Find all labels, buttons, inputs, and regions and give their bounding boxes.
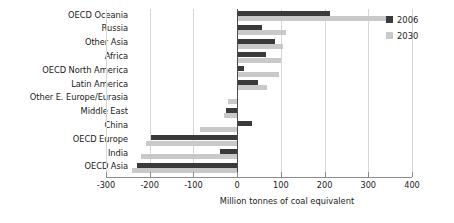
legend-item: 2006: [386, 9, 418, 25]
x-axis-title-wrapper: Million tonnes of coal equivalent: [0, 196, 454, 206]
bar-2006-other-asia: [237, 39, 275, 44]
bar-2030-oecd-oceania: [237, 16, 388, 21]
bar-2006-oecd-oceania: [237, 11, 330, 16]
x-axis-line: [106, 177, 412, 178]
chart-legend: 20062030: [386, 9, 418, 41]
bar-2030-china: [200, 127, 237, 132]
bar-2006-latin-america: [237, 80, 258, 85]
x-axis-tick: [412, 172, 413, 177]
bar-2006-oecd-europe: [151, 135, 237, 140]
zero-axis-line: [237, 9, 238, 177]
bar-2030-africa: [237, 58, 281, 63]
bar-2030-india: [141, 154, 237, 159]
legend-item: 2030: [386, 25, 418, 41]
x-axis-tick-label: -300: [86, 180, 126, 190]
bar-2030-middle-east: [224, 113, 237, 118]
bar-2030-oecd-north-america: [237, 72, 279, 77]
gridline: [368, 9, 369, 175]
bar-2030-latin-america: [237, 85, 267, 90]
bar-2006-oecd-asia: [137, 163, 237, 168]
bar-2030-oecd-asia: [132, 168, 237, 173]
x-axis-tick-label: -200: [130, 180, 170, 190]
bar-2030-oecd-europe: [146, 141, 237, 146]
bar-2030-russia: [237, 30, 286, 35]
x-axis-tick-label: 0: [217, 180, 257, 190]
x-axis-tick-label: -100: [173, 180, 213, 190]
legend-label: 2030: [397, 31, 418, 41]
x-axis-tick: [193, 172, 194, 177]
legend-swatch-icon: [386, 16, 393, 23]
plot-area: [106, 9, 412, 175]
x-axis-tick: [150, 172, 151, 177]
x-axis-tick-label: 100: [261, 180, 301, 190]
x-axis-tick-label: 200: [305, 180, 345, 190]
x-axis-tick: [325, 172, 326, 177]
gridline: [193, 9, 194, 175]
bar-2006-africa: [237, 52, 266, 57]
bar-2006-russia: [237, 25, 262, 30]
coal-trade-bar-chart: OECD OceaniaRussiaOther AsiaAfricaOECD N…: [0, 0, 454, 223]
x-axis-tick-label: 400: [392, 180, 432, 190]
bar-2006-middle-east: [226, 108, 237, 113]
x-axis-tick: [106, 172, 107, 177]
bar-2030-other-e-europe-eurasia: [228, 99, 237, 104]
gridline: [150, 9, 151, 175]
gridline: [106, 9, 107, 175]
x-axis-tick: [237, 172, 238, 177]
legend-swatch-icon: [386, 32, 393, 39]
bar-2006-oecd-north-america: [237, 66, 244, 71]
bar-2030-other-asia: [237, 44, 283, 49]
gridline: [325, 9, 326, 175]
bar-2006-india: [220, 149, 237, 154]
x-axis-tick: [368, 172, 369, 177]
x-axis-tick: [281, 172, 282, 177]
legend-label: 2006: [397, 15, 418, 25]
x-axis-title: Million tonnes of coal equivalent: [220, 196, 354, 206]
bar-2006-china: [237, 121, 252, 126]
x-axis-tick-label: 300: [348, 180, 388, 190]
